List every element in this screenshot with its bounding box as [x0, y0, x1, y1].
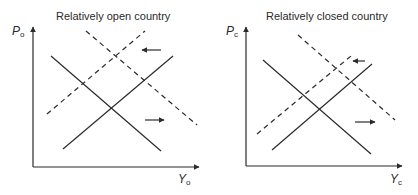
solid-up-line-closed	[272, 64, 372, 150]
diagram-canvas	[0, 0, 418, 195]
solid-up-line-open	[63, 56, 173, 149]
dashed-up-line-open	[47, 31, 145, 114]
dashed-down-line-open	[86, 31, 197, 125]
dashed-down-line-closed	[298, 35, 395, 120]
solid-down-line-closed	[263, 60, 371, 154]
solid-down-line-open	[51, 56, 161, 151]
